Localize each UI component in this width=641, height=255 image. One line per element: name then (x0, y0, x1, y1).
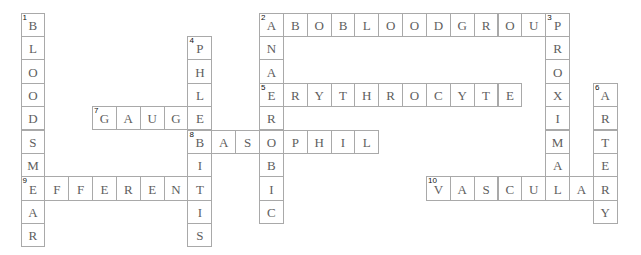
crossword-cell[interactable]: C (498, 176, 523, 200)
crossword-cell[interactable]: L (545, 176, 570, 200)
crossword-cell[interactable]: O (259, 130, 284, 154)
crossword-cell[interactable]: G (450, 13, 475, 37)
crossword-cell[interactable]: I (545, 106, 570, 130)
crossword-cell[interactable]: I (187, 153, 212, 177)
crossword-cell[interactable]: X (545, 83, 570, 107)
cell-letter: T (482, 89, 490, 106)
crossword-cell[interactable]: O (402, 13, 427, 37)
crossword-cell[interactable]: 6A (593, 83, 618, 107)
crossword-cell[interactable]: E (593, 153, 618, 177)
cell-letter: L (363, 19, 371, 36)
crossword-cell[interactable]: O (21, 83, 46, 107)
crossword-cell[interactable]: A (21, 200, 46, 224)
cell-letter: A (267, 19, 276, 36)
crossword-cell[interactable]: I (259, 176, 284, 200)
crossword-cell[interactable]: B (283, 13, 308, 37)
crossword-cell[interactable]: Y (307, 83, 332, 107)
crossword-cell[interactable]: R (283, 83, 308, 107)
crossword-cell[interactable]: H (354, 83, 379, 107)
crossword-cell[interactable]: R (593, 106, 618, 130)
crossword-cell[interactable]: A (450, 176, 475, 200)
crossword-cell[interactable]: L (354, 13, 379, 37)
crossword-cell[interactable]: O (545, 59, 570, 83)
crossword-cell[interactable]: 1B (21, 13, 46, 37)
crossword-cell[interactable]: E (140, 176, 165, 200)
crossword-cell[interactable]: I (187, 200, 212, 224)
crossword-cell[interactable]: P (283, 130, 308, 154)
crossword-cell[interactable]: 2A (259, 13, 284, 37)
crossword-cell[interactable]: D (426, 13, 451, 37)
crossword-cell[interactable]: R (21, 223, 46, 247)
crossword-cell[interactable]: I (331, 130, 356, 154)
crossword-cell[interactable]: C (426, 83, 451, 107)
crossword-cell[interactable]: O (21, 59, 46, 83)
crossword-cell[interactable]: A (569, 176, 594, 200)
crossword-cell[interactable]: R (378, 83, 403, 107)
crossword-cell[interactable]: F (68, 176, 93, 200)
crossword-cell[interactable]: B (331, 13, 356, 37)
cell-letter: X (553, 89, 562, 106)
crossword-cell[interactable]: N (164, 176, 189, 200)
crossword-cell[interactable]: H (307, 130, 332, 154)
crossword-cell[interactable]: R (545, 36, 570, 60)
crossword-cell[interactable]: 10V (426, 176, 451, 200)
crossword-cell[interactable]: U (521, 13, 546, 37)
crossword-cell[interactable]: B (259, 153, 284, 177)
crossword-cell[interactable]: R (116, 176, 141, 200)
cell-letter: G (171, 112, 180, 129)
crossword-cell[interactable]: 5E (259, 83, 284, 107)
cell-letter: B (291, 19, 300, 36)
cell-letter: S (482, 183, 489, 200)
crossword-cell[interactable]: Y (450, 83, 475, 107)
crossword-cell[interactable]: S (21, 130, 46, 154)
crossword-cell[interactable]: E (498, 83, 523, 107)
crossword-cell[interactable]: C (259, 200, 284, 224)
crossword-cell[interactable]: O (402, 83, 427, 107)
cell-letter: E (506, 89, 514, 106)
crossword-cell[interactable]: L (187, 83, 212, 107)
crossword-cell[interactable]: A (259, 59, 284, 83)
crossword-cell[interactable]: T (187, 176, 212, 200)
crossword-cell[interactable]: N (259, 36, 284, 60)
cell-letter: U (529, 183, 538, 200)
crossword-cell[interactable]: E (187, 106, 212, 130)
cell-letter: M (27, 159, 39, 176)
crossword-cell[interactable]: O (498, 13, 523, 37)
crossword-cell[interactable]: O (307, 13, 332, 37)
cell-letter: L (196, 89, 204, 106)
clue-number: 6 (595, 84, 599, 92)
crossword-cell[interactable]: R (259, 106, 284, 130)
crossword-cell[interactable]: L (21, 36, 46, 60)
crossword-cell[interactable]: A (116, 106, 141, 130)
crossword-cell[interactable]: G (164, 106, 189, 130)
crossword-cell[interactable]: E (92, 176, 117, 200)
crossword-cell[interactable]: R (474, 13, 499, 37)
crossword-cell[interactable]: D (21, 106, 46, 130)
crossword-cell[interactable]: U (140, 106, 165, 130)
crossword-cell[interactable]: A (545, 153, 570, 177)
crossword-cell[interactable]: 4P (187, 36, 212, 60)
crossword-cell[interactable]: U (521, 176, 546, 200)
clue-number: 10 (428, 177, 437, 185)
crossword-cell[interactable]: S (474, 176, 499, 200)
crossword-cell[interactable]: 7G (92, 106, 117, 130)
crossword-cell[interactable]: H (187, 59, 212, 83)
crossword-cell[interactable]: 3P (545, 13, 570, 37)
crossword-cell[interactable]: T (474, 83, 499, 107)
crossword-cell[interactable]: S (235, 130, 260, 154)
crossword-cell[interactable]: A (211, 130, 236, 154)
cell-letter: Y (458, 89, 467, 106)
crossword-cell[interactable]: T (331, 83, 356, 107)
crossword-cell[interactable]: S (187, 223, 212, 247)
cell-letter: O (553, 66, 562, 83)
crossword-cell[interactable]: O (378, 13, 403, 37)
crossword-cell[interactable]: 8B (187, 130, 212, 154)
crossword-cell[interactable]: 9E (21, 176, 46, 200)
crossword-cell[interactable]: R (593, 176, 618, 200)
crossword-cell[interactable]: M (545, 130, 570, 154)
crossword-cell[interactable]: M (21, 153, 46, 177)
crossword-cell[interactable]: L (354, 130, 379, 154)
crossword-cell[interactable]: T (593, 130, 618, 154)
crossword-cell[interactable]: Y (593, 200, 618, 224)
crossword-cell[interactable]: F (44, 176, 69, 200)
